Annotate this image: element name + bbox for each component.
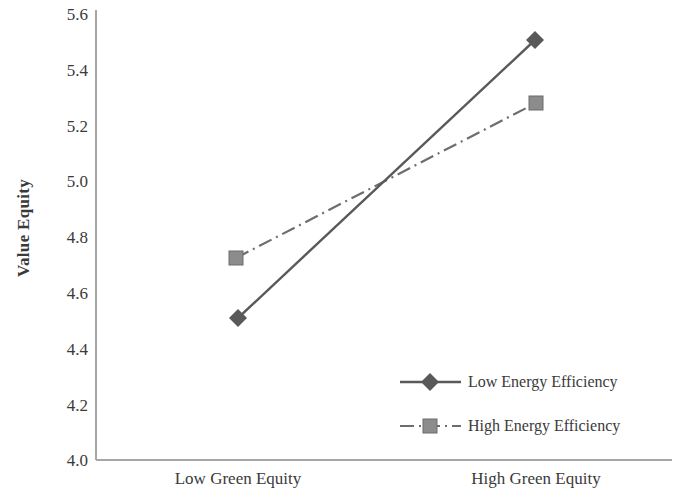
legend-label-high-energy-efficiency: High Energy Efficiency <box>468 418 620 434</box>
series-line-low-energy-efficiency <box>238 40 535 318</box>
legend-marker-square-icon <box>423 419 437 433</box>
legend-label-low-energy-efficiency: Low Energy Efficiency <box>468 374 618 390</box>
legend-marker-diamond-icon <box>421 373 439 391</box>
chart-figure: Value Equity 5.6 5.4 5.2 5.0 4.8 4.6 4.4… <box>0 0 677 500</box>
data-point-high-energy-efficiency-high-green-equity <box>529 96 543 110</box>
data-point-high-energy-efficiency-low-green-equity <box>229 251 243 265</box>
